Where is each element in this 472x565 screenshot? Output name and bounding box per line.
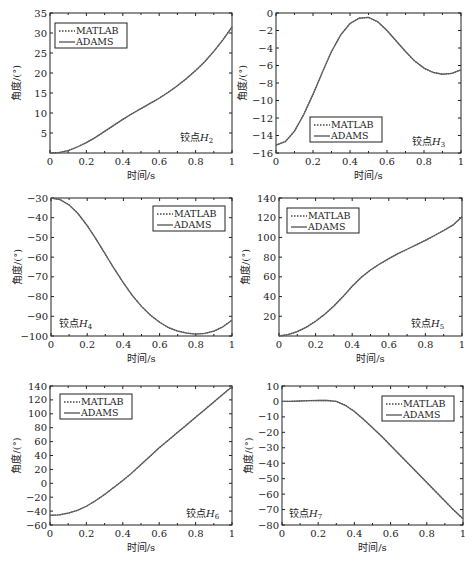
y-tick-label: 10 (34, 108, 47, 119)
y-tick-label: 10 (266, 381, 279, 392)
x-axis-label: 时间/s (127, 169, 156, 181)
y-tick-label: 120 (257, 212, 276, 223)
x-tick-label: 0.2 (78, 156, 94, 167)
legend: MATLABADAMS (153, 206, 225, 231)
y-tick-label: −20 (258, 427, 279, 438)
y-tick-label: −40 (26, 506, 47, 517)
y-tick-label: 0 (267, 8, 273, 19)
y-tick-label: 60 (263, 271, 276, 282)
y-tick-label: 35 (34, 8, 47, 19)
legend-label-adams: ADAMS (307, 221, 346, 232)
x-tick-label: 1 (229, 528, 235, 539)
x-tick-label: 0.4 (346, 528, 362, 539)
x-axis-label: 时间/s (354, 169, 383, 181)
x-tick-label: 0 (47, 528, 53, 539)
x-tick-label: 0.6 (383, 528, 399, 539)
y-axis-label: 角度/(°) (11, 249, 23, 285)
x-axis-label: 时间/s (356, 352, 385, 364)
y-tick-label: 30 (34, 28, 47, 39)
legend: MATLABADAMS (310, 117, 382, 142)
y-tick-label: 15 (34, 88, 47, 99)
legend-label-adams: ADAMS (75, 36, 114, 47)
y-tick-label: −14 (252, 130, 273, 141)
y-tick-label: 80 (34, 422, 47, 433)
figure-canvas: 00.20.40.60.81时间/s5101520253035角度/(°)MAT… (0, 0, 472, 565)
x-tick-label: 1 (460, 528, 466, 539)
y-axis-label: 角度/(°) (242, 437, 254, 473)
y-tick-label: 140 (257, 193, 276, 204)
hinge-point-annotation: 铰点H3 (412, 135, 445, 149)
x-tick-label: 0.6 (379, 156, 395, 167)
hinge-point-annotation: 铰点H6 (186, 507, 220, 521)
y-tick-label: −30 (27, 193, 48, 204)
x-tick-label: 1 (229, 156, 235, 167)
y-tick-label: −8 (258, 78, 273, 89)
y-tick-label: 100 (257, 232, 276, 243)
x-tick-label: 0 (47, 156, 53, 167)
x-tick-label: 1 (458, 156, 464, 167)
x-tick-label: 0.2 (79, 339, 95, 350)
legend-label-adams: ADAMS (330, 130, 369, 141)
x-tick-label: 0.8 (419, 528, 435, 539)
y-tick-label: −80 (27, 291, 48, 302)
x-tick-label: 0 (279, 528, 285, 539)
subplot-6: 00.20.40.60.81时间/s−80−70−60−50−40−30−20−… (242, 381, 466, 554)
y-tick-label: −12 (252, 113, 273, 124)
x-tick-label: 1 (229, 339, 235, 350)
hinge-point-annotation: 铰点H5 (411, 317, 444, 331)
hinge-point-annotation: 铰点H4 (59, 317, 93, 331)
subplot-4: 00.20.40.60.81时间/s20406080100120140角度/(°… (239, 193, 465, 365)
x-tick-label: 0.8 (188, 156, 204, 167)
y-tick-label: −10 (252, 95, 273, 106)
x-tick-label: 0.2 (310, 528, 326, 539)
y-axis-label: 角度/(°) (239, 249, 251, 285)
subplot-1: 00.20.40.60.81时间/s5101520253035角度/(°)MAT… (10, 8, 235, 182)
y-axis-label: 角度/(°) (10, 65, 22, 101)
y-tick-label: −40 (27, 212, 48, 223)
legend: MATLABADAMS (55, 23, 127, 48)
legend-label-adams: ADAMS (173, 219, 212, 230)
y-tick-label: 140 (28, 381, 47, 392)
y-tick-label: 20 (34, 464, 47, 475)
legend-label-matlab: MATLAB (308, 210, 351, 221)
legend-label-matlab: MATLAB (81, 396, 124, 407)
y-tick-label: −70 (258, 504, 279, 515)
x-tick-label: 0.6 (152, 339, 168, 350)
y-tick-label: −4 (258, 43, 273, 54)
y-tick-label: −10 (258, 411, 279, 422)
y-tick-label: −80 (258, 520, 279, 531)
y-tick-label: −70 (27, 271, 48, 282)
x-tick-label: 0.6 (381, 339, 397, 350)
y-tick-label: 25 (34, 48, 47, 59)
x-tick-label: 0.4 (344, 339, 360, 350)
subplot-2: 00.20.40.60.81时间/s−16−14−12−10−8−6−4−20角… (236, 8, 464, 182)
y-tick-label: −40 (258, 458, 279, 469)
y-tick-label: 20 (263, 311, 276, 322)
y-tick-label: 5 (41, 128, 47, 139)
legend-label-matlab: MATLAB (174, 208, 217, 219)
hinge-point-annotation: 铰点H2 (180, 131, 213, 145)
y-tick-label: 120 (28, 394, 47, 405)
y-tick-label: −16 (252, 148, 273, 159)
x-tick-label: 1 (459, 339, 465, 350)
y-tick-label: 0 (41, 478, 47, 489)
x-tick-label: 0.8 (416, 156, 432, 167)
y-tick-label: 40 (263, 291, 276, 302)
x-tick-label: 0 (273, 156, 279, 167)
x-tick-label: 0.2 (305, 156, 321, 167)
x-tick-label: 0.8 (188, 528, 204, 539)
y-tick-label: −60 (27, 252, 48, 263)
y-tick-label: −6 (258, 60, 273, 71)
y-tick-label: −60 (26, 520, 47, 531)
x-tick-label: 0.8 (417, 339, 433, 350)
x-tick-label: 0.2 (78, 528, 94, 539)
x-tick-label: 0 (276, 339, 282, 350)
y-tick-label: −20 (26, 492, 47, 503)
x-tick-label: 0.4 (115, 156, 131, 167)
y-tick-label: −2 (258, 25, 273, 36)
y-tick-label: −30 (258, 442, 279, 453)
subplot-5: 00.20.40.60.81时间/s−60−40−200204060801001… (10, 381, 235, 554)
y-axis-label: 角度/(°) (10, 437, 22, 473)
y-tick-label: 20 (34, 68, 47, 79)
y-tick-label: −90 (27, 311, 48, 322)
